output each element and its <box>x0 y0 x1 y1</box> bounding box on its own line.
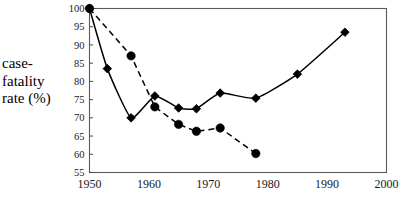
x-axis-tick-label: 1950 <box>78 177 102 191</box>
x-axis-tick-label: 1990 <box>315 177 339 191</box>
data-point-circle <box>127 52 135 60</box>
data-point-circle <box>151 103 159 111</box>
data-point-circle <box>252 149 260 157</box>
data-point-diamond <box>216 89 225 98</box>
data-point-diamond <box>192 104 201 113</box>
solid-series-line <box>90 9 345 118</box>
y-axis-tick-label: 95 <box>74 21 85 32</box>
y-axis-tick-label: 70 <box>74 112 85 123</box>
y-axis-tick-label: 90 <box>74 40 85 51</box>
y-axis-tick-label: 85 <box>74 58 85 69</box>
y-axis-tick-label: 65 <box>74 131 85 142</box>
y-axis-tick-label: 100 <box>69 3 85 14</box>
data-point-diamond <box>252 94 261 103</box>
y-axis-tick-label: 80 <box>74 76 85 87</box>
x-axis-tick-label: 1970 <box>196 177 220 191</box>
data-point-circle <box>174 120 182 128</box>
x-axis-tick-label: 1980 <box>256 177 280 191</box>
chart-figure: case- fatality rate (%) 5560657075808590… <box>0 0 404 199</box>
y-axis-tick-label: 75 <box>74 94 85 105</box>
data-point-circle <box>192 127 200 135</box>
data-point-circle <box>85 4 93 12</box>
dashed-series-line <box>90 9 256 154</box>
data-point-diamond <box>174 104 183 113</box>
x-axis-tick-label: 2000 <box>375 177 399 191</box>
y-axis-tick-label: 60 <box>74 149 85 160</box>
x-axis-tick-label: 1960 <box>137 177 161 191</box>
plot-area: 5560657075808590951001950196019701980199… <box>0 0 404 199</box>
data-point-circle <box>216 124 224 132</box>
data-point-diamond <box>103 64 112 73</box>
